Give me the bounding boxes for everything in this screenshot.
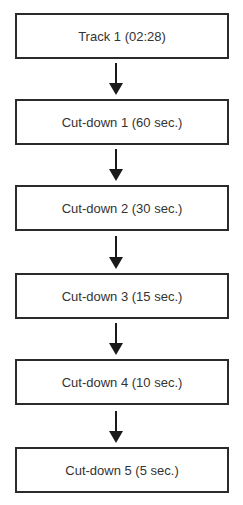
node-cut-down-5: Cut-down 5 (5 sec.) (15, 447, 229, 493)
arrow-down-icon (109, 411, 123, 443)
node-label: Cut-down 5 (5 sec.) (65, 463, 178, 478)
node-label: Cut-down 3 (15 sec.) (62, 289, 183, 304)
arrow-down-icon (109, 63, 123, 95)
node-label: Cut-down 2 (30 sec.) (62, 201, 183, 216)
node-cut-down-2: Cut-down 2 (30 sec.) (15, 185, 229, 231)
node-track-1: Track 1 (02:28) (15, 13, 229, 59)
node-cut-down-3: Cut-down 3 (15 sec.) (15, 273, 229, 319)
node-label: Cut-down 1 (60 sec.) (62, 115, 183, 130)
arrow-down-icon (109, 149, 123, 181)
arrow-down-icon (109, 323, 123, 355)
node-cut-down-1: Cut-down 1 (60 sec.) (15, 99, 229, 145)
node-cut-down-4: Cut-down 4 (10 sec.) (15, 359, 229, 405)
arrow-down-icon (109, 236, 123, 269)
node-label: Cut-down 4 (10 sec.) (62, 375, 183, 390)
node-label: Track 1 (02:28) (78, 29, 166, 44)
